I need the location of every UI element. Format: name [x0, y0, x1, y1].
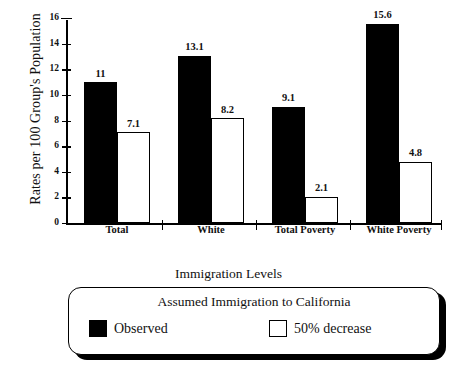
y-tick-mark — [61, 18, 72, 19]
bar-value-label: 8.2 — [221, 105, 234, 116]
bar-value-label: 13.1 — [185, 42, 203, 53]
y-tick-mark — [62, 95, 71, 96]
y-tick-label: 0 — [54, 218, 59, 228]
legend-items: Observed 50% decrease — [69, 320, 439, 346]
bar-value-label: 9.1 — [282, 93, 295, 104]
y-tick-mark — [62, 223, 71, 224]
bar-value-label: 15.6 — [373, 10, 391, 21]
y-tick-label: 16 — [50, 13, 60, 23]
legend-swatch-decrease-icon — [269, 320, 287, 337]
x-category-label: White Poverty — [366, 225, 431, 236]
y-tick-mark — [62, 69, 71, 70]
chart-figure: Rates per 100 Group's Population 0246810… — [0, 0, 457, 375]
y-tick-mark — [62, 146, 71, 147]
legend-label-observed: Observed — [114, 322, 168, 336]
x-category-label: Total — [106, 225, 129, 236]
bar-group: 117.1Total — [84, 18, 150, 223]
y-tick-label: 4 — [54, 167, 59, 177]
x-tick-mark — [162, 220, 163, 230]
bar-observed[interactable] — [178, 56, 211, 224]
legend-item-50-percent-decrease[interactable]: 50% decrease — [269, 320, 371, 337]
bar-decrease[interactable] — [305, 197, 338, 224]
y-tick-label: 14 — [50, 39, 60, 49]
y-axis-line — [66, 20, 68, 225]
legend-item-observed[interactable]: Observed — [89, 320, 168, 337]
bar-value-label: 2.1 — [315, 183, 328, 194]
bar-group: 9.12.1Total Poverty — [272, 18, 338, 223]
y-tick-label: 8 — [54, 116, 59, 126]
bar-observed[interactable] — [366, 24, 399, 224]
bar-decrease[interactable] — [211, 118, 244, 223]
bar-observed[interactable] — [272, 107, 305, 224]
y-tick-label: 6 — [54, 141, 59, 151]
legend-label-decrease: 50% decrease — [294, 322, 371, 336]
legend-box: Assumed Immigration to California Observ… — [68, 287, 440, 355]
bar-observed[interactable] — [84, 82, 117, 223]
bar-group: 13.18.2White — [178, 18, 244, 223]
bar-value-label: 4.8 — [409, 148, 422, 159]
legend-swatch-observed-icon — [89, 320, 107, 337]
x-tick-mark — [256, 220, 257, 230]
y-tick-mark — [62, 172, 71, 173]
legend-heading: Assumed Immigration to California — [69, 294, 439, 310]
y-tick-mark — [62, 44, 71, 45]
bar-group: 15.64.8White Poverty — [366, 18, 432, 223]
legend-outer-title: Immigration Levels — [0, 266, 457, 282]
y-tick-mark — [62, 121, 71, 122]
x-tick-mark — [350, 220, 351, 230]
bar-value-label: 7.1 — [127, 119, 140, 130]
bar-value-label: 11 — [96, 69, 106, 80]
y-axis-title: Rates per 100 Group's Population — [28, 4, 44, 214]
y-tick-mark — [62, 197, 71, 198]
x-category-label: Total Poverty — [275, 225, 336, 236]
plot-area: 0246810121416 117.1Total13.18.2White9.12… — [66, 18, 442, 225]
bar-decrease[interactable] — [117, 132, 150, 223]
y-tick-label: 10 — [50, 90, 60, 100]
x-tick-mark — [441, 220, 442, 230]
y-tick-label: 2 — [54, 193, 59, 203]
y-tick-label: 12 — [50, 65, 60, 75]
bar-decrease[interactable] — [399, 162, 432, 224]
x-category-label: White — [197, 225, 224, 236]
